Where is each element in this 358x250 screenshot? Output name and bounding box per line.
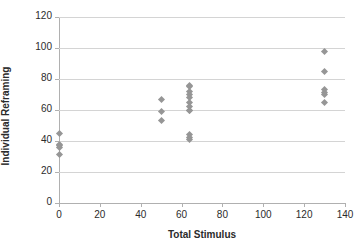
x-tick-mark: [182, 203, 183, 207]
gridline: [59, 172, 345, 173]
y-tick-mark: [55, 17, 59, 18]
data-point: [321, 68, 328, 75]
x-axis-title: Total Stimulus: [59, 229, 345, 240]
y-tick-label: 100: [35, 41, 52, 52]
x-tick-mark: [59, 203, 60, 207]
x-tick-label: 80: [217, 209, 228, 220]
data-point: [186, 107, 193, 114]
y-tick-label: 60: [41, 103, 52, 114]
x-tick-mark: [100, 203, 101, 207]
x-axis-line: [59, 203, 346, 204]
x-tick-mark: [141, 203, 142, 207]
y-tick-mark: [55, 79, 59, 80]
x-tick-label: 0: [56, 209, 62, 220]
data-point: [321, 99, 328, 106]
y-tick-label: 0: [46, 196, 52, 207]
gridline: [59, 141, 345, 142]
gridline: [59, 48, 345, 49]
y-tick-label: 40: [41, 134, 52, 145]
x-tick-mark: [345, 203, 346, 207]
plot-area: 020406080100120 020406080100120140: [59, 17, 345, 203]
data-point: [55, 130, 62, 137]
x-tick-label: 20: [94, 209, 105, 220]
y-tick-mark: [55, 48, 59, 49]
data-point: [158, 117, 165, 124]
y-tick-label: 80: [41, 72, 52, 83]
data-point: [55, 151, 62, 158]
x-tick-label: 120: [296, 209, 313, 220]
y-tick-label: 120: [35, 10, 52, 21]
gridline: [59, 110, 345, 111]
y-tick-label: 20: [41, 165, 52, 176]
gridline: [59, 79, 345, 80]
x-tick-mark: [222, 203, 223, 207]
x-tick-mark: [263, 203, 264, 207]
x-tick-label: 60: [176, 209, 187, 220]
scatter-chart: Individual Reframing 020406080100120 020…: [0, 0, 358, 250]
x-tick-label: 100: [255, 209, 272, 220]
y-tick-mark: [55, 172, 59, 173]
y-tick-mark: [55, 110, 59, 111]
y-axis-title: Individual Reframing: [0, 16, 16, 216]
x-tick-label: 140: [337, 209, 354, 220]
gridline: [59, 17, 345, 18]
x-tick-mark: [304, 203, 305, 207]
x-tick-label: 40: [135, 209, 146, 220]
data-point: [158, 96, 165, 103]
